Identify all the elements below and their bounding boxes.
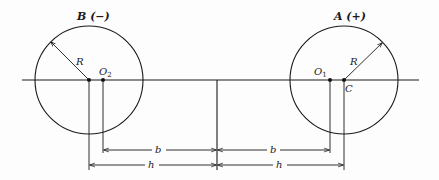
label-radius-a: R: [349, 56, 358, 67]
dim-label-b-right: b: [270, 144, 276, 155]
center-dot-b: [87, 78, 91, 82]
label-a-positive: A (+): [333, 10, 366, 23]
diagram-svg: B (−) R O2 A (+) R O1 C b h b h: [0, 0, 439, 180]
label-c: C: [345, 83, 353, 94]
label-radius-b: R: [75, 56, 84, 67]
label-b-negative: B (−): [76, 10, 110, 23]
point-o1-dot: [328, 78, 332, 82]
dim-label-b-left: b: [155, 144, 161, 155]
point-c-dot: [342, 78, 346, 82]
dim-label-h-right: h: [276, 159, 282, 170]
label-o1: O1: [314, 66, 327, 79]
label-o2: O2: [99, 66, 112, 79]
dim-label-h-left: h: [148, 159, 154, 170]
diagram: B (−) R O2 A (+) R O1 C b h b h: [0, 0, 439, 180]
point-o2-dot: [101, 78, 105, 82]
